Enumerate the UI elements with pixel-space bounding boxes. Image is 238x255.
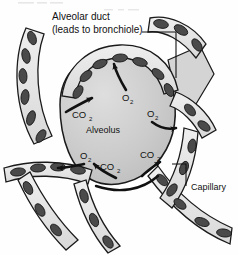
label-alveolar-duct-line2: (leads to bronchiole) xyxy=(52,24,143,35)
svg-text:O: O xyxy=(80,150,87,161)
svg-text:CO: CO xyxy=(140,149,154,160)
label-alveolus: Alveolus xyxy=(86,125,121,135)
svg-text:O: O xyxy=(147,108,154,119)
label-alveolar-duct-line1: Alveolar duct xyxy=(52,11,110,22)
diagram-canvas: Alveolar duct (leads to bronchiole) Alve… xyxy=(0,0,238,255)
label-capillary: Capillary xyxy=(191,182,227,192)
svg-text:CO: CO xyxy=(72,109,86,120)
alveolus-diagram-svg: Alveolar duct (leads to bronchiole) Alve… xyxy=(0,0,238,255)
svg-text:CO: CO xyxy=(100,161,114,172)
svg-text:O: O xyxy=(122,92,129,103)
